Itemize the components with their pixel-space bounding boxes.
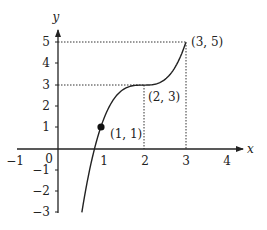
point-label-3-5: (3, 5): [191, 35, 223, 49]
x-tick-1: 1: [100, 154, 108, 168]
cubic-graph: y x 5 4 3 2 1 −1 −2 −3 −1 0 1 2 3 4 (1, …: [0, 0, 267, 230]
y-tick-2: 2: [42, 99, 50, 113]
y-tick-3: 3: [42, 78, 50, 92]
point-label-2-3: (2, 3): [148, 90, 180, 104]
x-axis-label: x: [247, 142, 254, 156]
y-tick-4: 4: [42, 56, 50, 70]
x-tick-3: 3: [182, 154, 190, 168]
y-axis-label: y: [52, 10, 60, 24]
y-tick-m3: −3: [32, 205, 50, 219]
point-1-1-marker: [97, 123, 104, 130]
y-tick-5: 5: [42, 35, 50, 49]
x-tick-m1: −1: [6, 154, 24, 168]
x-tick-4: 4: [223, 154, 231, 168]
point-label-1-1: (1, 1): [110, 127, 142, 141]
origin-label: 0: [45, 152, 53, 166]
y-tick-m2: −2: [32, 184, 50, 198]
y-tick-1: 1: [42, 120, 50, 134]
x-tick-2: 2: [141, 154, 149, 168]
